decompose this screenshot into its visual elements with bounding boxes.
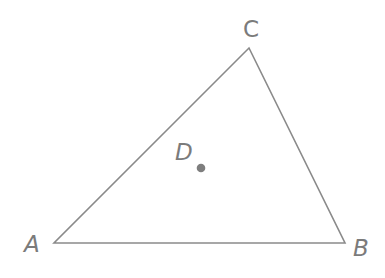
vertex-label-a: A <box>22 231 40 257</box>
triangle-abc <box>54 48 345 243</box>
point-d-marker <box>197 164 206 173</box>
point-label-d: D <box>175 139 193 165</box>
vertex-label-c: C <box>243 16 259 42</box>
triangle-diagram: A B C D <box>0 0 385 278</box>
vertex-label-b: B <box>353 235 369 261</box>
diagram-svg: A B C D <box>0 0 385 278</box>
